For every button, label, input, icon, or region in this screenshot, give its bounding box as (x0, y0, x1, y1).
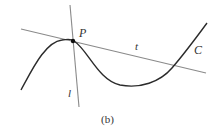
label-l: l (68, 88, 71, 99)
label-t: t (135, 41, 138, 52)
point-p-dot (71, 39, 75, 43)
label-c: C (194, 44, 202, 56)
tangent-line-t (21, 29, 206, 73)
diagram-canvas (0, 0, 216, 129)
label-p: P (79, 27, 86, 39)
diagram-figure: P t C l (b) (0, 0, 216, 129)
figure-caption: (b) (101, 114, 114, 125)
normal-line-l (70, 5, 79, 107)
curve-c (21, 23, 207, 90)
